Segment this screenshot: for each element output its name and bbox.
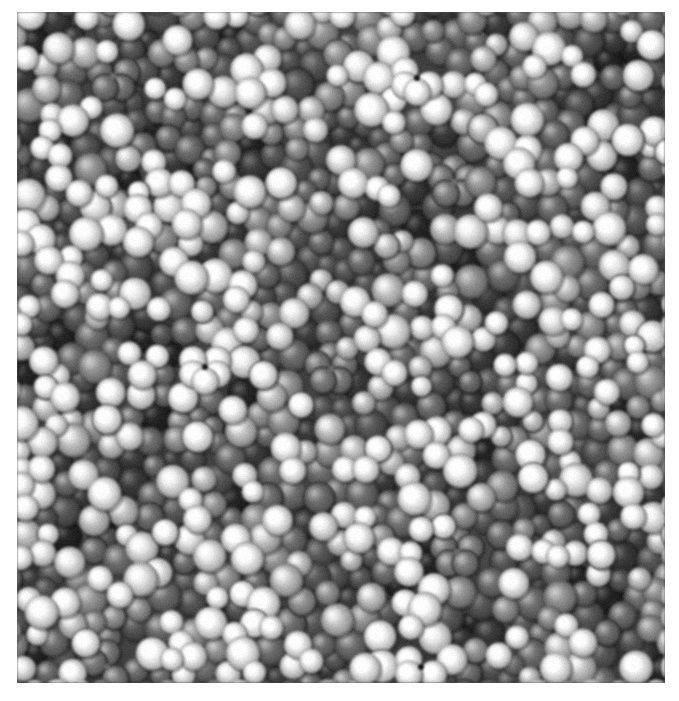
micrograph-panel: [17, 12, 665, 683]
figure-root: Dense amorphous packing of polydisperse …: [0, 0, 679, 701]
particle-packing-canvas: [17, 12, 665, 683]
